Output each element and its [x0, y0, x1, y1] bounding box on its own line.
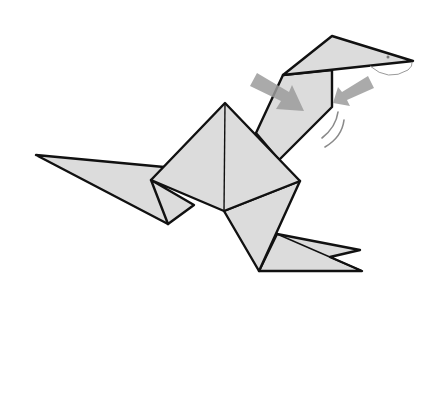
tail-panel	[36, 155, 168, 224]
eye-dot	[387, 56, 390, 59]
head-panel	[283, 36, 413, 75]
push-arrow-right-icon	[333, 76, 374, 106]
diagram-canvas	[0, 0, 439, 399]
origami-diagram	[0, 0, 439, 399]
motion-lines-icon	[322, 112, 344, 147]
body-center-crease	[224, 103, 225, 211]
